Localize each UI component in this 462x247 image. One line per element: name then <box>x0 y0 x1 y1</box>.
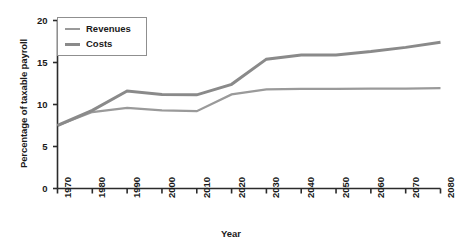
x-tick-2010: 2010 <box>201 176 212 197</box>
chart-figure: Percentage of taxable payroll 05101520 1… <box>0 0 462 247</box>
legend-label-costs: Costs <box>86 39 112 49</box>
legend-label-revenues: Revenues <box>86 24 131 34</box>
legend-swatch-revenues <box>65 28 80 30</box>
legend-swatch-costs <box>65 43 80 46</box>
y-tick-10: 10 <box>24 99 48 110</box>
legend-item-costs: Costs <box>65 37 112 51</box>
x-tick-2070: 2070 <box>410 176 421 197</box>
x-tick-1990: 1990 <box>131 176 142 197</box>
x-tick-2040: 2040 <box>305 176 316 197</box>
legend: Revenues Costs <box>57 17 147 56</box>
y-tick-0: 0 <box>24 183 48 194</box>
y-tick-20: 20 <box>24 15 48 26</box>
x-tick-2000: 2000 <box>166 176 177 197</box>
x-tick-2050: 2050 <box>340 176 351 197</box>
x-tick-1980: 1980 <box>96 176 107 197</box>
x-tick-2030: 2030 <box>270 176 281 197</box>
x-tick-2080: 2080 <box>445 176 456 197</box>
y-tick-5: 5 <box>24 141 48 152</box>
y-tick-15: 15 <box>24 57 48 68</box>
legend-item-revenues: Revenues <box>65 22 131 36</box>
x-tick-2060: 2060 <box>375 176 386 197</box>
x-axis-title: Year <box>0 228 462 239</box>
x-tick-1970: 1970 <box>62 176 73 197</box>
x-tick-2020: 2020 <box>236 176 247 197</box>
